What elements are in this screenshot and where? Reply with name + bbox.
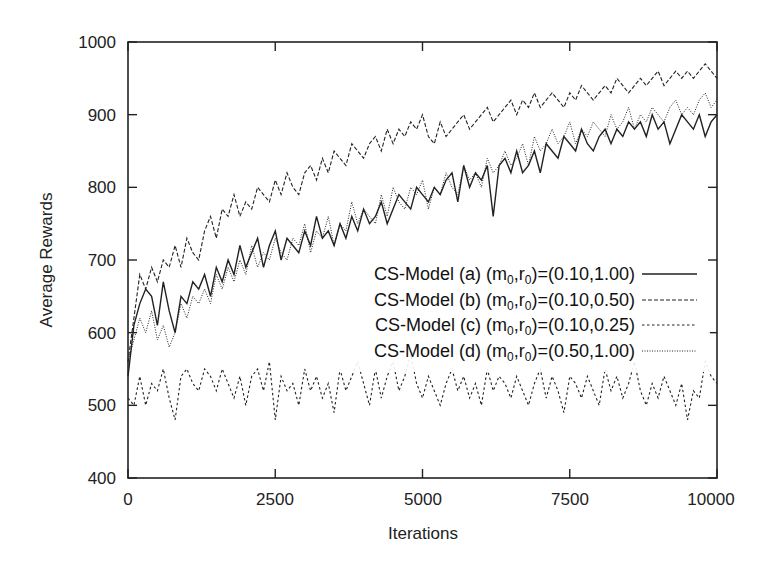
y-tick-label: 700 — [88, 251, 116, 270]
y-axis-title: Average Rewards — [37, 193, 56, 328]
y-axis-tick-labels: 400 500 600 700 800 900 1000 — [78, 33, 116, 488]
x-tick-label: 7500 — [551, 490, 589, 509]
x-tick-label: 5000 — [404, 490, 442, 509]
x-axis-tick-labels: 0 2500 5000 7500 10000 — [123, 490, 734, 509]
legend-label: CS-Model (b) (m0,r0)=(0.10,0.50) — [374, 290, 635, 313]
line-chart: 400 500 600 700 800 900 1000 0 2500 5000… — [0, 0, 784, 568]
legend-label: CS-Model (c) (m0,r0)=(0.10,0.25) — [375, 315, 635, 338]
legend-label: CS-Model (d) (m0,r0)=(0.50,1.00) — [374, 341, 635, 364]
y-tick-label: 500 — [88, 396, 116, 415]
y-tick-label: 800 — [88, 178, 116, 197]
y-tick-label: 600 — [88, 324, 116, 343]
y-tick-label: 1000 — [78, 33, 116, 52]
y-tick-label: 900 — [88, 106, 116, 125]
x-tick-label: 2500 — [256, 490, 294, 509]
x-tick-label: 10000 — [687, 490, 734, 509]
x-tick-label: 0 — [123, 490, 132, 509]
legend-label: CS-Model (a) (m0,r0)=(0.10,1.00) — [374, 264, 635, 287]
legend: CS-Model (a) (m0,r0)=(0.10,1.00) CS-Mode… — [325, 262, 710, 372]
x-axis-title: Iterations — [388, 524, 458, 543]
y-tick-label: 400 — [88, 469, 116, 488]
